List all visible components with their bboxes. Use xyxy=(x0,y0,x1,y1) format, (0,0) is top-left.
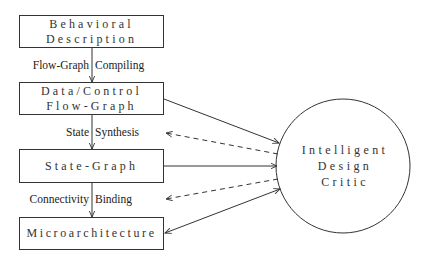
critic-label: Intelligent Design Critic xyxy=(290,142,400,190)
edge-label-compiling-left: Flow-Graph xyxy=(33,58,89,72)
box-state-graph: State-Graph xyxy=(19,149,164,183)
box-label-line: Microarchitecture xyxy=(26,226,156,241)
box-label-line: Data/Control xyxy=(41,84,142,99)
box-behavioral-description: Behavioral Description xyxy=(19,15,164,48)
box-data-control-flow-graph: Data/Control Flow-Graph xyxy=(19,82,164,115)
critic-label-line: Critic xyxy=(290,174,400,190)
box-label-line: Description xyxy=(46,32,137,47)
box-label-line: Flow-Graph xyxy=(46,99,137,114)
box-label-line: State-Graph xyxy=(45,159,138,174)
edge-label-synthesis-left: State xyxy=(66,125,89,139)
box-microarchitecture: Microarchitecture xyxy=(19,217,164,250)
edge-label-binding-left: Connectivity xyxy=(30,192,89,206)
edge-label-compiling-right: Compiling xyxy=(95,58,144,72)
critic-label-line: Intelligent xyxy=(290,142,400,158)
arrow-micro-critic-bidirectional xyxy=(165,189,280,233)
edge-label-synthesis-right: Synthesis xyxy=(95,125,139,139)
edge-label-binding-right: Binding xyxy=(95,192,132,206)
box-label-line: Behavioral xyxy=(49,17,134,32)
critic-label-line: Design xyxy=(290,158,400,174)
arrow-dcfg-to-critic xyxy=(164,99,279,143)
